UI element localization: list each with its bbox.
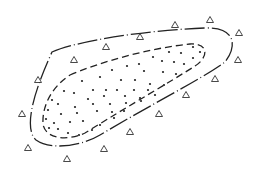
dot-point [82,120,84,122]
dot-point [63,90,65,92]
dot-point [69,121,71,123]
dot-point [87,98,89,100]
dot-point [139,97,141,99]
dot-point [138,63,140,65]
dot-point [126,65,128,67]
dot-point [76,112,78,114]
dot-point [109,103,111,105]
dot-point [111,111,113,113]
dot-point [180,52,182,54]
triangle-icon [19,111,26,117]
inner-boundary [43,44,205,138]
dot-point [45,118,47,120]
triangle-icon [235,57,242,63]
dot-point [51,99,53,101]
triangle-icon [236,30,243,36]
dot-point [125,102,127,104]
triangle-icon [101,146,108,152]
dot-point [152,56,154,58]
dot-point [162,71,164,73]
dot-point [47,109,49,111]
triangle-markers [19,17,243,162]
dot-point [134,79,136,81]
dot-point [111,69,113,71]
dot-point [149,83,151,85]
dot-point [74,106,76,108]
dot-point [192,46,194,48]
dot-point [163,84,165,86]
diagram-canvas [0,0,257,173]
dot-point [73,92,75,94]
triangle-icon [25,145,32,151]
dot-point [57,128,59,130]
dot-point [92,103,94,105]
dot-point [113,117,115,119]
dot-point [116,89,118,91]
dot-point [199,51,201,53]
dot-point [154,94,156,96]
outer-boundary [30,28,232,146]
dot-point [67,132,69,134]
dot-point [105,89,107,91]
dot-point [143,70,145,72]
triangle-icon [156,111,163,117]
dot-point [175,73,177,75]
dot-point [78,134,80,136]
dot-point [91,129,93,131]
dot-point [99,124,101,126]
triangle-icon [35,77,42,83]
triangle-icon [137,34,144,40]
dot-point [140,100,142,102]
dot-point [57,103,59,105]
dot-point [168,51,170,53]
dot-point [173,61,175,63]
dot-point [60,113,62,115]
triangle-icon [127,129,134,135]
triangle-icon [71,57,78,63]
triangle-icon [212,76,219,82]
triangle-icon [183,92,190,98]
dot-point [103,95,105,97]
triangle-icon [64,156,71,162]
dot-point [161,60,163,62]
dot-point [147,89,149,91]
triangle-icon [172,22,179,28]
dot-point [120,79,122,81]
dot-point [81,80,83,82]
dot-point [133,89,135,91]
dot-point [48,127,50,129]
dot-point [123,110,125,112]
dot-point [192,57,194,59]
triangle-icon [103,44,110,50]
dot-point [124,95,126,97]
dot-point [183,63,185,65]
dot-point [53,122,55,124]
dot-point [92,89,94,91]
dot-point [96,110,98,112]
dot-point [99,76,101,78]
triangle-icon [207,17,214,23]
